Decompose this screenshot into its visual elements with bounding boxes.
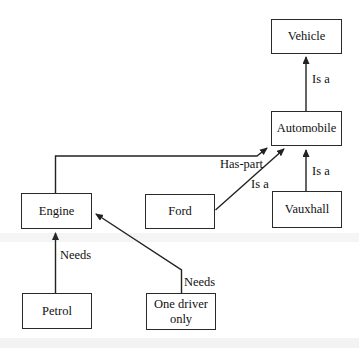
node-one-driver-only: One driver only bbox=[146, 293, 216, 330]
node-vehicle-label: Vehicle bbox=[288, 29, 325, 43]
edge-label-has-part: Has-part bbox=[220, 157, 263, 172]
edge-label-isa-vauxhall: Is a bbox=[312, 164, 330, 179]
edge-label-needs-petrol: Needs bbox=[60, 248, 91, 263]
node-one-driver-only-label: One driver only bbox=[149, 297, 213, 326]
node-engine: Engine bbox=[21, 193, 92, 229]
semantic-network-diagram: Vehicle Automobile Engine Ford Vauxhall … bbox=[0, 0, 359, 348]
node-automobile-label: Automobile bbox=[277, 121, 337, 135]
edge-label-isa-vehicle: Is a bbox=[312, 72, 330, 87]
node-automobile: Automobile bbox=[271, 111, 342, 146]
node-vauxhall-label: Vauxhall bbox=[285, 202, 329, 216]
node-engine-label: Engine bbox=[39, 204, 74, 218]
edge-label-needs-driver: Needs bbox=[184, 275, 215, 290]
node-petrol: Petrol bbox=[22, 293, 92, 329]
node-ford-label: Ford bbox=[168, 204, 192, 218]
node-vauxhall: Vauxhall bbox=[272, 191, 342, 228]
node-petrol-label: Petrol bbox=[42, 304, 72, 318]
edge-label-isa-ford: Is a bbox=[251, 177, 269, 192]
node-ford: Ford bbox=[145, 194, 215, 229]
node-vehicle: Vehicle bbox=[271, 19, 342, 54]
